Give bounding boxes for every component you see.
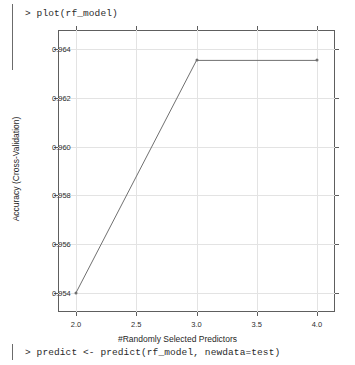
- y-tick-right: [335, 293, 339, 294]
- x-tick-bottom: [136, 312, 137, 316]
- x-tick-label: 2.5: [131, 320, 141, 329]
- x-tick-bottom: [197, 312, 198, 316]
- data-point: [75, 291, 78, 294]
- x-tick-label: 3.5: [251, 320, 261, 329]
- x-tick-bottom: [317, 312, 318, 316]
- data-point: [315, 59, 318, 62]
- rf-model-accuracy-plot: 2.02.53.03.54.0 0.9540.9560.9580.9600.96…: [0, 24, 355, 324]
- y-tick-right: [335, 147, 339, 148]
- x-tick-bottom: [257, 312, 258, 316]
- y-tick-right: [335, 98, 339, 99]
- y-axis-title: Accuracy (Cross-Validation): [11, 69, 21, 269]
- x-tick-label: 2.0: [71, 320, 81, 329]
- console-gutter-bottom: [12, 344, 13, 360]
- series-polyline: [76, 60, 317, 292]
- y-tick-right: [335, 195, 339, 196]
- console-command-predict: > predict <- predict(rf_model, newdata=t…: [25, 347, 280, 358]
- console-command-plot: > plot(rf_model): [25, 8, 118, 19]
- y-tick-right: [335, 244, 339, 245]
- series-line-svg: [58, 30, 335, 312]
- data-point: [195, 59, 198, 62]
- x-tick-bottom: [76, 312, 77, 316]
- x-tick-label: 3.0: [191, 320, 201, 329]
- y-tick-right: [335, 49, 339, 50]
- accuracy-series: [58, 30, 335, 312]
- x-axis-title: #Randomly Selected Predictors: [0, 334, 355, 344]
- x-tick-label: 4.0: [312, 320, 322, 329]
